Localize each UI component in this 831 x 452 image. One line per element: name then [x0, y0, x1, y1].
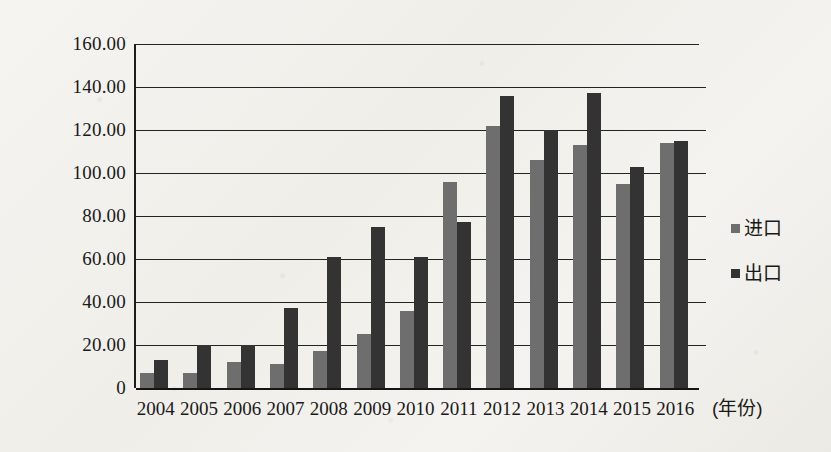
y-axis-tick-label: 80.00 [6, 206, 126, 225]
bar-group [394, 44, 437, 388]
x-axis-tick-label: 2013 [524, 398, 567, 420]
y-axis-tick-mark [697, 216, 706, 217]
y-axis-tick-mark [697, 345, 706, 346]
x-axis-tick-label: 2007 [264, 398, 307, 420]
x-axis-tick-labels: 2004200520062007200820092010201120122013… [0, 398, 831, 428]
bar-export[interactable] [500, 96, 514, 388]
bar-group [351, 44, 394, 388]
x-axis-baseline [136, 388, 699, 390]
bar-export[interactable] [457, 222, 471, 388]
legend-swatch-export-icon [731, 269, 740, 278]
legend-item-import[interactable]: 进口 [731, 218, 826, 239]
x-axis-tick-label: 2016 [654, 398, 697, 420]
bar-export[interactable] [197, 345, 211, 388]
bar-export[interactable] [327, 257, 341, 388]
legend-swatch-import-icon [731, 224, 740, 233]
bar-export[interactable] [371, 227, 385, 388]
y-axis-tick-mark [697, 302, 706, 303]
bar-export[interactable] [154, 360, 168, 388]
bar-import[interactable] [486, 126, 500, 388]
legend-label-export: 出口 [744, 263, 782, 284]
bar-group [264, 44, 307, 388]
bar-chart: 020.0040.0060.0080.00100.00120.00140.001… [0, 0, 831, 452]
x-axis-tick-label: 2008 [307, 398, 350, 420]
y-axis-tick-mark [697, 87, 706, 88]
x-axis-tick-label: 2009 [351, 398, 394, 420]
y-axis-tick-label: 100.00 [6, 163, 126, 182]
y-axis-tick-label: 20.00 [6, 335, 126, 354]
bar-export[interactable] [630, 167, 644, 388]
y-axis-tick-mark [697, 130, 706, 131]
bar-group [567, 44, 610, 388]
bar-group [610, 44, 653, 388]
bar-group [134, 44, 177, 388]
bars-layer [134, 44, 697, 388]
bar-import[interactable] [227, 362, 241, 388]
bar-import[interactable] [660, 143, 674, 388]
bar-group [307, 44, 350, 388]
y-axis-tick-label: 0 [6, 378, 126, 397]
bar-export[interactable] [544, 130, 558, 388]
bar-import[interactable] [313, 351, 327, 388]
bar-import[interactable] [443, 182, 457, 388]
x-axis-title: (年份) [712, 398, 763, 420]
bar-export[interactable] [414, 257, 428, 388]
bar-group [437, 44, 480, 388]
bar-import[interactable] [183, 373, 197, 388]
bar-import[interactable] [530, 160, 544, 388]
bar-import[interactable] [357, 334, 371, 388]
x-axis-tick-label: 2005 [177, 398, 220, 420]
x-axis-tick-label: 2012 [480, 398, 523, 420]
legend-label-import: 进口 [744, 218, 782, 239]
bar-group [221, 44, 264, 388]
x-axis-tick-label: 2010 [394, 398, 437, 420]
bar-group [480, 44, 523, 388]
x-axis-tick-label: 2014 [567, 398, 610, 420]
bar-import[interactable] [140, 373, 154, 388]
bar-export[interactable] [284, 308, 298, 388]
y-axis-tick-label: 40.00 [6, 292, 126, 311]
y-axis-tick-label: 140.00 [6, 77, 126, 96]
y-axis-tick-mark [697, 173, 706, 174]
bar-group [654, 44, 697, 388]
x-axis-tick-label: 2004 [134, 398, 177, 420]
bar-group [524, 44, 567, 388]
bar-import[interactable] [573, 145, 587, 388]
bar-import[interactable] [400, 311, 414, 388]
bar-export[interactable] [587, 93, 601, 388]
bar-export[interactable] [241, 345, 255, 388]
legend-item-export[interactable]: 出口 [731, 263, 826, 284]
y-axis-tick-mark [697, 259, 706, 260]
x-axis-tick-label: 2015 [610, 398, 653, 420]
y-axis-tick-label: 160.00 [6, 34, 126, 53]
y-axis-tick-label: 120.00 [6, 120, 126, 139]
bar-group [177, 44, 220, 388]
bar-export[interactable] [674, 141, 688, 388]
x-axis-tick-label: 2006 [221, 398, 264, 420]
bar-import[interactable] [616, 184, 630, 388]
y-axis-tick-label: 60.00 [6, 249, 126, 268]
chart-legend: 进口 出口 [731, 218, 826, 308]
x-axis-tick-label: 2011 [437, 398, 480, 420]
bar-import[interactable] [270, 364, 284, 388]
